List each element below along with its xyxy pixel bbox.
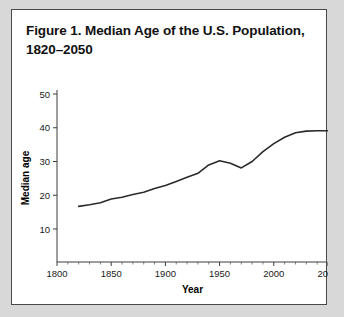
y-axis-title: Median age xyxy=(20,150,31,205)
median-age-line-chart: 1020304050 180018501900195020002050 Medi… xyxy=(12,10,328,306)
x-tick-label: 1850 xyxy=(101,268,122,279)
x-tick-label: 1800 xyxy=(46,268,67,279)
x-tick-label: 1900 xyxy=(155,268,176,279)
x-tick-label: 2050 xyxy=(317,268,328,279)
chart-plot-area: 1020304050 180018501900195020002050 Medi… xyxy=(12,10,328,306)
y-tick-label: 10 xyxy=(39,224,50,235)
x-axis-tick-marks xyxy=(57,262,328,266)
median-age-series-line xyxy=(79,131,328,207)
y-axis-tick-labels: 1020304050 xyxy=(39,89,50,235)
y-tick-label: 40 xyxy=(39,122,50,133)
y-tick-label: 50 xyxy=(39,89,50,100)
y-axis-tick-marks xyxy=(53,94,57,229)
y-tick-label: 20 xyxy=(39,190,50,201)
x-axis-tick-labels: 180018501900195020002050 xyxy=(46,268,328,279)
x-tick-label: 2000 xyxy=(263,268,284,279)
figure-panel: Figure 1. Median Age of the U.S. Populat… xyxy=(11,9,327,305)
x-axis-title: Year xyxy=(182,284,203,295)
x-tick-label: 1950 xyxy=(209,268,230,279)
y-tick-label: 30 xyxy=(39,156,50,167)
